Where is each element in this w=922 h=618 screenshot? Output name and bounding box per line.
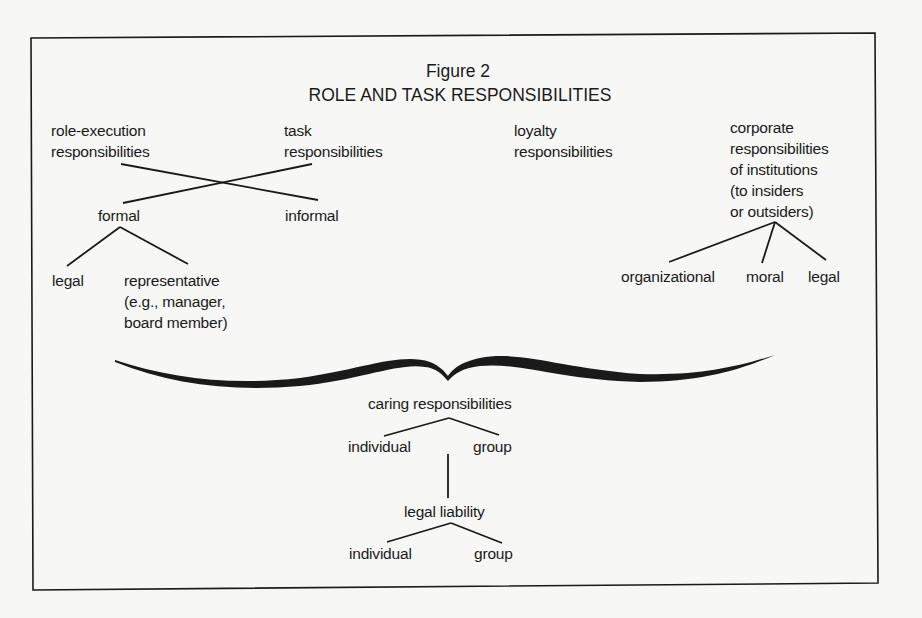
node-task-line2: responsibilities — [284, 141, 382, 162]
node-legal-liability: legal liability — [404, 501, 485, 522]
line-caring-to-group — [449, 418, 499, 435]
node-task-line1: task — [284, 120, 312, 141]
node-corporate-line5: or outsiders) — [730, 201, 814, 222]
line-liability-to-group — [451, 523, 502, 543]
node-corporate-line3: of institutions — [730, 159, 817, 180]
node-role-execution-line1: role-execution — [51, 120, 146, 141]
line-formal-to-representative — [120, 227, 188, 264]
line-corporate-to-legal — [775, 222, 826, 260]
line-liability-to-individual — [387, 523, 451, 542]
node-corporate-line1: corporate — [730, 117, 794, 138]
node-liability-individual: individual — [349, 543, 412, 564]
curly-brace-icon — [115, 355, 775, 388]
node-corporate-line4: (to insiders — [730, 180, 803, 201]
node-representative-line3: board member) — [124, 312, 227, 333]
line-corporate-to-organizational — [669, 222, 775, 262]
node-formal: formal — [98, 205, 140, 226]
node-representative-line2: (e.g., manager, — [124, 291, 225, 312]
node-informal: informal — [285, 205, 339, 226]
figure-title: ROLE AND TASK RESPONSIBILITIES — [250, 84, 670, 106]
line-caring-to-individual — [384, 418, 449, 436]
node-loyalty-line1: loyalty — [514, 120, 557, 141]
figure-number: Figure 2 — [408, 60, 508, 82]
node-caring-group: group — [473, 436, 512, 457]
node-caring-individual: individual — [348, 436, 411, 457]
node-loyalty-line2: responsibilities — [514, 141, 612, 162]
node-role-execution-line2: responsibilities — [51, 141, 149, 162]
line-formal-to-legal — [67, 227, 120, 266]
node-corporate-legal: legal — [808, 266, 840, 287]
node-liability-group: group — [474, 543, 513, 564]
line-corporate-to-moral — [762, 222, 775, 263]
node-formal-legal: legal — [52, 270, 84, 291]
node-corporate-line2: responsibilities — [730, 138, 828, 159]
node-representative-line1: representative — [124, 270, 219, 291]
node-moral: moral — [746, 266, 784, 287]
node-caring: caring responsibilities — [368, 393, 512, 414]
node-organizational: organizational — [621, 266, 715, 287]
